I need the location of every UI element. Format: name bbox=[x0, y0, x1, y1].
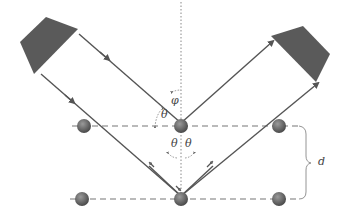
spacing-brace bbox=[299, 126, 311, 199]
atom-lower-right bbox=[272, 192, 286, 206]
theta-label-lower-right: θ bbox=[185, 137, 192, 150]
path-diff-right bbox=[181, 166, 213, 196]
atom-lower-center bbox=[174, 192, 188, 206]
detector-icon bbox=[271, 26, 330, 82]
arrow-icon bbox=[176, 186, 180, 190]
bragg-diagram: φ θ θ θ d bbox=[0, 0, 347, 221]
atom-upper-center bbox=[174, 119, 188, 133]
arrow-icon bbox=[100, 52, 108, 59]
source-icon bbox=[20, 17, 78, 74]
reflected-ray-upper bbox=[181, 42, 272, 123]
phi-arc bbox=[172, 90, 181, 92]
theta-label-lower-left: θ bbox=[171, 137, 178, 150]
arrow-icon bbox=[150, 163, 154, 167]
reflected-ray-lower bbox=[181, 84, 317, 196]
theta-label-upper: θ bbox=[161, 108, 168, 121]
atom-upper-right bbox=[272, 119, 286, 133]
arrow-icon bbox=[207, 162, 212, 167]
atom-upper-left bbox=[77, 119, 91, 133]
atom-lower-left bbox=[75, 192, 89, 206]
path-diff-left bbox=[149, 166, 181, 196]
theta-arc-lower-left bbox=[168, 153, 178, 158]
phi-label: φ bbox=[171, 94, 179, 107]
spacing-label: d bbox=[318, 155, 325, 168]
incident-ray-lower bbox=[41, 74, 181, 196]
theta-arc-lower-right bbox=[184, 153, 194, 158]
arrow-icon bbox=[65, 95, 73, 102]
